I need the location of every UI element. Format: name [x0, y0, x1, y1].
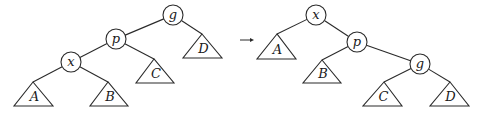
before-edge-p-x: [80, 44, 107, 58]
after-node-x-label: x: [312, 7, 320, 22]
after-edge-g-C: [384, 68, 411, 82]
after-node-p-label: p: [353, 34, 362, 49]
after-edge-p-g: [366, 45, 410, 60]
rotation-arrow: [240, 38, 254, 42]
after-edge-g-D: [429, 69, 450, 82]
before-tree: ABCDgpx: [14, 5, 222, 106]
after-subtree-C-label: C: [379, 89, 389, 104]
after-edge-x-A: [277, 19, 307, 34]
before-subtree-C-label: C: [151, 66, 161, 81]
before-edge-g-p: [125, 19, 164, 35]
arrow-head-icon: [250, 38, 254, 42]
after-tree: ABCDxpg: [257, 5, 469, 106]
after-edge-p-B: [322, 47, 348, 60]
before-node-p-label: p: [112, 31, 121, 46]
before-edge-x-A: [33, 67, 62, 82]
tree-rotation-diagram: ABCDgpx ABCDxpg: [0, 0, 481, 115]
before-subtree-D-label: D: [197, 41, 209, 56]
after-subtree-D-label: D: [444, 89, 456, 104]
after-node-g-label: g: [416, 56, 424, 71]
after-edge-x-p: [324, 20, 348, 36]
before-node-g-label: g: [169, 7, 177, 22]
before-edge-p-C: [125, 44, 154, 59]
before-edge-x-B: [80, 67, 108, 82]
before-node-x-label: x: [67, 54, 75, 69]
before-subtree-A-label: A: [29, 89, 39, 104]
before-subtree-B-label: B: [104, 89, 115, 104]
after-subtree-B-label: B: [317, 66, 328, 81]
before-edge-g-D: [181, 20, 202, 34]
after-subtree-A-label: A: [272, 42, 282, 57]
